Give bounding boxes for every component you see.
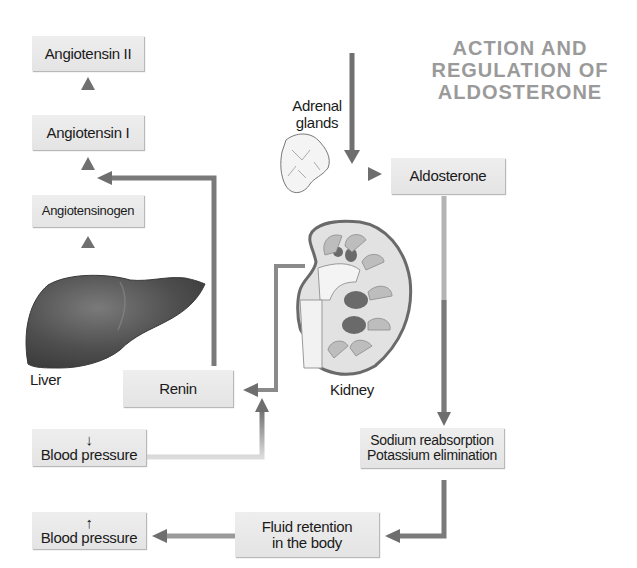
kidney-illustration <box>298 221 411 374</box>
arrow-down-icon: ↓ <box>85 433 92 447</box>
arrow-liver-to-angiotensinogen <box>81 236 95 270</box>
arrow-up-icon: ↑ <box>85 516 92 530</box>
node-aldosterone: Aldosterone <box>391 158 505 194</box>
arrow-aldosterone-to-sodium <box>437 196 451 426</box>
node-blood-pressure-high: ↑ Blood pressure <box>32 512 146 549</box>
label-adrenal-glands: Adrenal glands <box>282 98 352 131</box>
arrow-angiotensinogen-to-angiotensin-i <box>81 157 95 194</box>
node-blood-pressure-low: ↓ Blood pressure <box>32 429 146 466</box>
node-fluid-retention: Fluid retention in the body <box>235 512 379 557</box>
arrow-fluid-to-blood-pressure <box>152 529 235 543</box>
node-angiotensinogen: Angiotensinogen <box>32 195 144 227</box>
liver-illustration <box>26 275 205 368</box>
adrenal-gland-illustration <box>281 134 329 193</box>
label-kidney: Kidney <box>330 382 374 399</box>
arrow-kidney-to-renin <box>243 266 305 397</box>
arrow-angiotensin-i-to-angiotensin-ii <box>81 77 95 114</box>
label-liver: Liver <box>30 372 61 389</box>
arrow-sodium-to-fluid-retention <box>385 480 444 543</box>
node-sodium-potassium: Sodium reabsorption Potassium eliminatio… <box>360 428 504 468</box>
node-renin: Renin <box>123 370 233 407</box>
node-angiotensin-i: Angiotensin I <box>32 115 144 150</box>
node-angiotensin-ii: Angiotensin II <box>32 36 144 71</box>
diagram-title: ACTION AND REGULATION OF ALDOSTERONE <box>410 37 630 103</box>
